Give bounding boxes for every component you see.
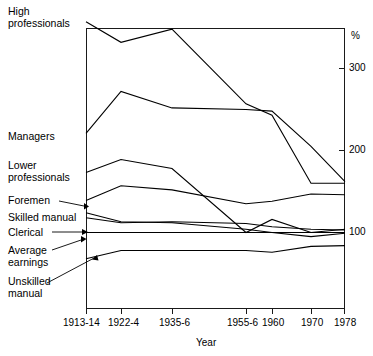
- series-label-skilled-manual-text: Skilled manual: [8, 211, 76, 223]
- y-tick-label-100-text: 100: [349, 226, 366, 237]
- chart-container: Highprofessionals Managers Lowerprofessi…: [0, 0, 373, 356]
- x-tick-label-1960-text: 1960: [262, 317, 284, 328]
- series-high-professionals: [86, 22, 345, 184]
- series-managers: [86, 92, 345, 182]
- series-clerical: [86, 218, 345, 230]
- y-axis-unit-text: %: [351, 30, 360, 41]
- leader-average-earnings: [52, 239, 84, 250]
- x-tick-label-1913: 1913-14: [63, 317, 100, 328]
- x-tick-label-1970: 1970: [301, 317, 323, 328]
- y-tick-label-100: 100: [349, 226, 366, 237]
- series-label-high-professionals-line2: professionals: [8, 17, 70, 29]
- x-tick-label-1935: 1935-6: [159, 317, 190, 328]
- x-tick-label-1913-text: 1913-14: [63, 317, 100, 328]
- x-axis-title: Year: [196, 337, 216, 348]
- x-tick-label-1955: 1955-6: [227, 317, 258, 328]
- y-tick-label-300: 300: [349, 62, 366, 73]
- y-tick-label-200-text: 200: [349, 144, 366, 155]
- series-label-average-earnings-line2: earnings: [8, 256, 48, 268]
- x-tick-label-1960: 1960: [262, 317, 284, 328]
- series-foremen: [86, 186, 345, 204]
- series-label-clerical-text: Clerical: [8, 226, 43, 238]
- series-label-foremen-text: Foremen: [8, 194, 50, 206]
- y-tick-label-300-text: 300: [349, 62, 366, 73]
- y-axis-unit-label: %: [351, 30, 360, 41]
- arrowhead-clerical: [82, 229, 88, 235]
- series-unskilled-manual: [86, 246, 345, 259]
- arrowhead-average-earnings: [81, 236, 87, 243]
- series-label-lower-professionals-line1: Lower: [8, 159, 37, 171]
- series-label-skilled-manual: Skilled manual: [8, 212, 76, 224]
- x-tick-label-1922: 1922-4: [108, 317, 139, 328]
- series-label-high-professionals-line1: High: [8, 5, 30, 17]
- x-tick-label-1978: 1978: [334, 317, 356, 328]
- series-lines: [86, 22, 345, 259]
- series-label-average-earnings: Averageearnings: [8, 245, 48, 268]
- series-label-high-professionals: Highprofessionals: [8, 6, 70, 29]
- series-label-unskilled-manual-line1: Unskilled: [8, 275, 51, 287]
- x-tick-label-1922-text: 1922-4: [108, 317, 139, 328]
- y-tick-label-200: 200: [349, 144, 366, 155]
- series-label-clerical: Clerical: [8, 227, 43, 239]
- series-label-average-earnings-line1: Average: [8, 244, 47, 256]
- leader-unskilled-manual: [47, 257, 96, 283]
- x-ticks: [87, 309, 345, 314]
- series-label-foremen: Foremen: [8, 195, 50, 207]
- x-tick-label-1955-text: 1955-6: [227, 317, 258, 328]
- x-tick-label-1935-text: 1935-6: [159, 317, 190, 328]
- series-label-managers: Managers: [8, 131, 55, 143]
- series-label-managers-text: Managers: [8, 130, 55, 142]
- leader-arrowheads: [81, 203, 99, 261]
- x-tick-label-1970-text: 1970: [301, 317, 323, 328]
- x-axis-title-text: Year: [196, 337, 216, 348]
- plot-axes: [86, 28, 345, 309]
- series-label-unskilled-manual: Unskilledmanual: [8, 276, 51, 299]
- leader-foremen: [59, 201, 84, 206]
- series-label-lower-professionals: Lowerprofessionals: [8, 160, 70, 183]
- series-label-lower-professionals-line2: professionals: [8, 171, 70, 183]
- series-label-unskilled-manual-line2: manual: [8, 287, 42, 299]
- x-tick-label-1978-text: 1978: [334, 317, 356, 328]
